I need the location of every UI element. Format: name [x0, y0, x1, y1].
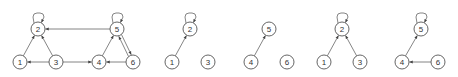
self-loop-edge-2 [33, 13, 44, 23]
node-6: 6 [431, 55, 445, 69]
node-label: 2 [340, 25, 345, 34]
graph-subgraph-4: 546 [395, 13, 445, 69]
node-6: 6 [280, 55, 294, 69]
node-label: 6 [285, 58, 290, 67]
node-5: 5 [262, 22, 276, 36]
node-5: 5 [414, 22, 428, 36]
edge-1-to-2 [175, 36, 186, 56]
edges [405, 13, 431, 62]
edges [254, 36, 265, 56]
edge-1-to-2 [327, 36, 338, 56]
node-label: 2 [188, 25, 193, 34]
node-label: 5 [419, 25, 424, 34]
edge-4-to-5 [102, 36, 113, 56]
node-label: 3 [206, 58, 211, 67]
node-label: 5 [267, 25, 272, 34]
node-4: 4 [395, 55, 409, 69]
node-label: 4 [249, 58, 254, 67]
node-label: 6 [436, 58, 441, 67]
node-4: 4 [92, 55, 106, 69]
self-loop-edge-5 [112, 13, 123, 23]
node-3: 3 [353, 55, 367, 69]
edge-4-to-5 [254, 36, 265, 56]
edge-3-to-2 [346, 36, 357, 56]
node-label: 5 [115, 25, 120, 34]
edges [23, 13, 131, 62]
node-1: 1 [13, 55, 27, 69]
edge-1-to-2 [23, 36, 34, 56]
node-6: 6 [126, 55, 140, 69]
graph-subgraph-1: 213 [165, 13, 215, 69]
node-label: 4 [97, 58, 102, 67]
node-4: 4 [244, 55, 258, 69]
graph-subgraph-2: 546 [244, 22, 294, 69]
self-loop-edge-2 [185, 13, 196, 23]
node-2: 2 [183, 22, 197, 36]
node-label: 1 [18, 58, 23, 67]
edge-3-to-2 [42, 36, 53, 56]
node-label: 4 [400, 58, 405, 67]
node-label: 2 [36, 25, 41, 34]
node-5: 5 [110, 22, 124, 36]
node-1: 1 [165, 55, 179, 69]
graph-diagram: 123456213546213546 [0, 0, 458, 77]
node-3: 3 [201, 55, 215, 69]
graphs-layer: 123456213546213546 [13, 13, 445, 69]
node-1: 1 [317, 55, 331, 69]
node-label: 3 [54, 58, 59, 67]
graph-subgraph-3: 213 [317, 13, 367, 69]
node-label: 3 [358, 58, 363, 67]
node-2: 2 [335, 22, 349, 36]
self-loop-edge-2 [337, 13, 348, 23]
node-label: 1 [322, 58, 327, 67]
node-3: 3 [49, 55, 63, 69]
node-label: 1 [170, 58, 175, 67]
node-2: 2 [31, 22, 45, 36]
self-loop-edge-5 [416, 13, 427, 23]
edge-4-to-5 [405, 35, 417, 55]
node-label: 6 [131, 58, 136, 67]
graph-full: 123456 [13, 13, 140, 69]
